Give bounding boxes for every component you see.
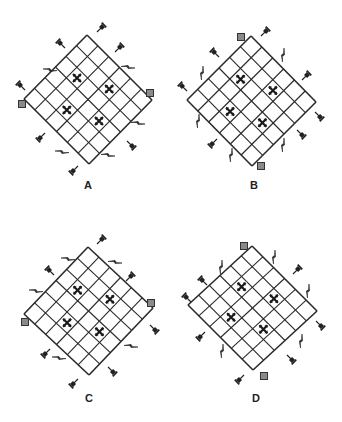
pin-icon [285,353,297,365]
cross-arrows-icon [226,312,236,322]
lightning-arrow-icon [272,250,275,264]
pin-icon [195,330,207,342]
panel-d: D [0,0,171,211]
grid-lines [188,246,317,370]
lightning-arrow-icon [299,334,302,348]
square-marker-icon [241,243,248,250]
diamond-grid-d [0,0,342,422]
lightning-arrow-icon [306,284,309,298]
cross-arrows-icon [269,294,279,304]
lightning-arrow-icon [220,344,223,358]
pin-icon [291,264,303,276]
panel-label-d: D [246,392,266,404]
lightning-arrow-icon [219,260,222,274]
pin-icon [314,319,326,331]
pin-icon [234,373,246,385]
square-marker-icon [261,373,268,380]
cross-arrows-icon [237,282,247,292]
cross-arrows-icon [258,324,268,334]
pin-icon [197,275,209,287]
